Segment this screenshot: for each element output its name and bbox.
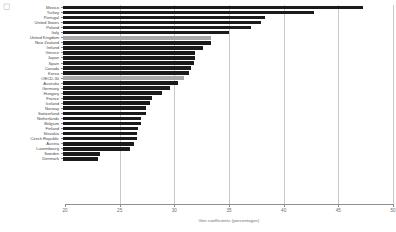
x-axis-ticks: 20253035404550 <box>65 204 393 216</box>
axis-tick-label-45: 45 <box>336 208 341 214</box>
bar-finland <box>63 127 138 131</box>
axis-tick-30 <box>174 204 175 207</box>
bar-poland <box>63 26 251 30</box>
axis-tick-50 <box>393 204 394 207</box>
bar-czech-republic <box>63 137 137 141</box>
bar-mexico <box>63 6 363 10</box>
bar-hungary <box>63 91 162 95</box>
bar-france <box>63 96 152 100</box>
axis-tick-45 <box>338 204 339 207</box>
gridline-50 <box>393 5 394 204</box>
bar-korea <box>63 71 189 75</box>
axis-tick-label-35: 35 <box>226 208 231 214</box>
bar-oecd-30 <box>63 76 184 80</box>
bar-new-zealand <box>63 41 211 45</box>
bar-label-denmark: Denmark <box>0 156 61 161</box>
axis-tick-label-50: 50 <box>390 208 395 214</box>
bar-luxembourg <box>63 147 130 151</box>
bar-denmark <box>63 157 98 161</box>
bar-turkey <box>63 11 314 15</box>
axis-tick-35 <box>229 204 230 207</box>
bar-italy <box>63 31 229 35</box>
bar-spain <box>63 61 194 65</box>
bar-row: Denmark <box>0 156 393 161</box>
bar-rows: MexicoTurkeyPortugalUnited StatesPolandI… <box>0 5 393 161</box>
axis-tick-label-25: 25 <box>117 208 122 214</box>
axis-tick-40 <box>284 204 285 207</box>
axis-tick-label-30: 30 <box>172 208 177 214</box>
bar-portugal <box>63 16 265 20</box>
bar-belgium <box>63 122 141 126</box>
bar-germany <box>63 86 170 90</box>
bar-greece <box>63 51 195 55</box>
bar-austria <box>63 142 134 146</box>
bar-iceland <box>63 101 150 105</box>
axis-tick-20 <box>65 204 66 207</box>
bar-united-states <box>63 21 261 25</box>
bar-netherlands <box>63 117 141 121</box>
axis-tick-25 <box>120 204 121 207</box>
bar-switzerland <box>63 112 146 116</box>
bar-japan <box>63 56 195 60</box>
bar-track <box>63 156 393 161</box>
bar-ireland <box>63 46 203 50</box>
axis-tick-label-20: 20 <box>62 208 67 214</box>
plot-area: MexicoTurkeyPortugalUnited StatesPolandI… <box>0 5 393 204</box>
x-axis-title: Gini coefficients (percentages) <box>65 218 393 223</box>
bar-australia <box>63 81 178 85</box>
axis-tick-label-40: 40 <box>281 208 286 214</box>
bar-slovakia <box>63 132 137 136</box>
bar-canada <box>63 66 191 70</box>
bar-united-kingdom <box>63 36 211 40</box>
bar-sweden <box>63 152 100 156</box>
bar-norway <box>63 106 146 110</box>
